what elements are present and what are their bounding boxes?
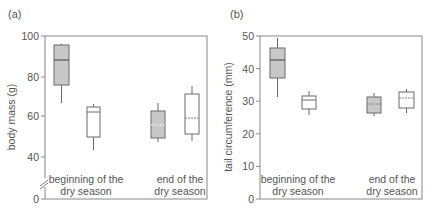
box-b-1	[270, 38, 285, 97]
panel-a: (a) body mass (g) 100 80 60 40 0	[5, 8, 207, 205]
panel-b-ylabel: tail circumference (mm)	[222, 62, 234, 172]
group-label: dry season	[154, 185, 206, 197]
box-a-2	[87, 104, 100, 150]
box-b-3	[367, 93, 381, 116]
group-label: beginning of the	[49, 173, 124, 185]
group-label: dry season	[60, 185, 112, 197]
group-label: end of the	[157, 173, 204, 185]
panel-b-group-labels: beginning of the dry season end of the d…	[261, 173, 418, 197]
ytick-label: 40	[242, 63, 254, 75]
ytick-label: 0	[248, 193, 254, 205]
ytick-label: 100	[21, 30, 39, 42]
ytick-label: 80	[27, 71, 39, 83]
ytick-label: 60	[27, 110, 39, 122]
ytick-label: 0	[33, 193, 39, 205]
box-b-4	[399, 89, 414, 113]
panel-a-label: (a)	[8, 8, 21, 20]
group-label: dry season	[272, 185, 324, 197]
panel-b-label: (b)	[230, 8, 243, 20]
panel-b: (b) tail circumference (mm) 50 40 30 20 …	[222, 8, 422, 205]
ytick-label: 50	[242, 30, 254, 42]
box-a-4	[185, 86, 199, 141]
box-b-2	[302, 91, 316, 115]
ytick-label: 40	[27, 151, 39, 163]
group-label: dry season	[366, 185, 418, 197]
ytick-label: 20	[242, 128, 254, 140]
panel-b-yticks: 50 40 30 20 10 0	[242, 30, 260, 205]
group-label: end of the	[369, 173, 416, 185]
ytick-label: 30	[242, 95, 254, 107]
ytick-label: 10	[242, 160, 254, 172]
figure: (a) body mass (g) 100 80 60 40 0	[0, 0, 434, 214]
panel-a-ylabel: body mass (g)	[5, 84, 17, 151]
box-a-3	[151, 103, 165, 142]
group-label: beginning of the	[261, 173, 336, 185]
panel-a-group-labels: beginning of the dry season end of the d…	[49, 173, 206, 197]
box-a-1	[54, 44, 69, 103]
